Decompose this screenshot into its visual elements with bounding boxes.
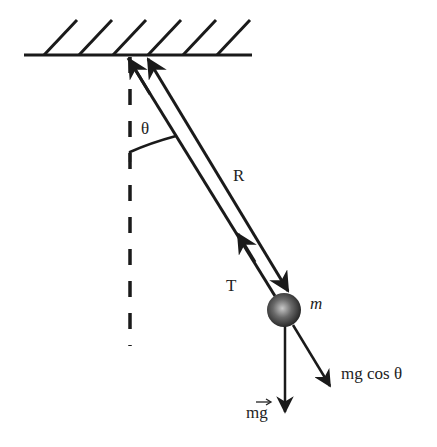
tension-arrow-top: [129, 59, 150, 94]
tension-label: T: [226, 277, 236, 294]
pendulum-diagram: θ R T m mg cos θ mg: [0, 0, 437, 447]
radial-component-label: mg cos θ: [341, 365, 402, 382]
weight-label: mg: [246, 404, 268, 421]
radial-component-arrow: [293, 325, 330, 386]
angle-label: θ: [141, 120, 149, 137]
length-arrow: [148, 59, 288, 291]
vector-arrow-icon: [255, 398, 273, 406]
angle-arc: [130, 136, 176, 162]
ceiling: [24, 20, 252, 55]
length-label: R: [233, 167, 244, 184]
tension-arrow: [238, 234, 255, 262]
pendulum-bob: [267, 293, 301, 327]
mass-label: m: [310, 295, 322, 312]
